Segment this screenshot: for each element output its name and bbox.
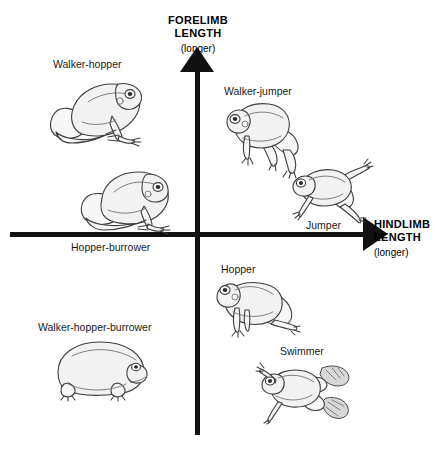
frog-locomotion-diagram: FORELIMB LENGTH (longer) HINDLIMB LENGTH…: [0, 0, 445, 451]
vertical-axis-title-line2: LENGTH: [128, 27, 268, 40]
vertical-axis-line: [195, 58, 200, 435]
horizontal-axis-line: [10, 232, 368, 237]
label-hopper-burrower: Hopper-burrower: [71, 241, 150, 253]
horizontal-axis-title-line2: LENGTH: [374, 231, 445, 244]
frog-sitting-icon: [44, 76, 152, 150]
label-swimmer: Swimmer: [280, 345, 324, 357]
vertical-axis-title: FORELIMB LENGTH (longer): [128, 14, 268, 55]
horizontal-axis-title: HINDLIMB LENGTH (longer): [374, 218, 445, 259]
horizontal-axis-qualifier: (longer): [374, 246, 445, 259]
frog-squat-icon: [78, 168, 176, 234]
frog-swimming-icon: [256, 362, 354, 424]
label-walker-hopper-burrower: Walker-hopper-burrower: [38, 321, 151, 333]
vertical-axis-qualifier: (longer): [128, 42, 268, 55]
frog-leaping-icon: [287, 156, 373, 220]
vertical-axis-title-line1: FORELIMB: [128, 14, 268, 27]
frog-round-burrower-icon: [48, 340, 156, 402]
label-walker-jumper: Walker-jumper: [224, 85, 292, 97]
label-hopper: Hopper: [221, 263, 255, 275]
label-walker-hopper: Walker-hopper: [53, 58, 121, 70]
label-jumper: Jumper: [306, 219, 341, 231]
horizontal-axis-title-line1: HINDLIMB: [374, 218, 445, 231]
frog-crouching-icon: [211, 276, 301, 338]
